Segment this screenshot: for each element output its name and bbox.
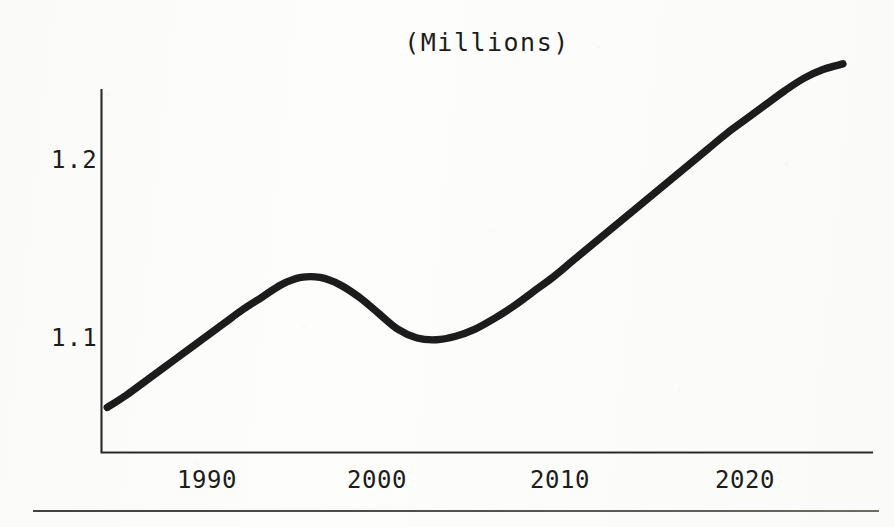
chart-page: (Millions) 1.2 1.1 1990 2000 2010 2020: [0, 0, 894, 527]
axis-spine: [102, 90, 873, 453]
footer-horizontal-rule: [33, 510, 879, 512]
plot-area: [0, 0, 894, 527]
data-series-line: [107, 64, 843, 408]
